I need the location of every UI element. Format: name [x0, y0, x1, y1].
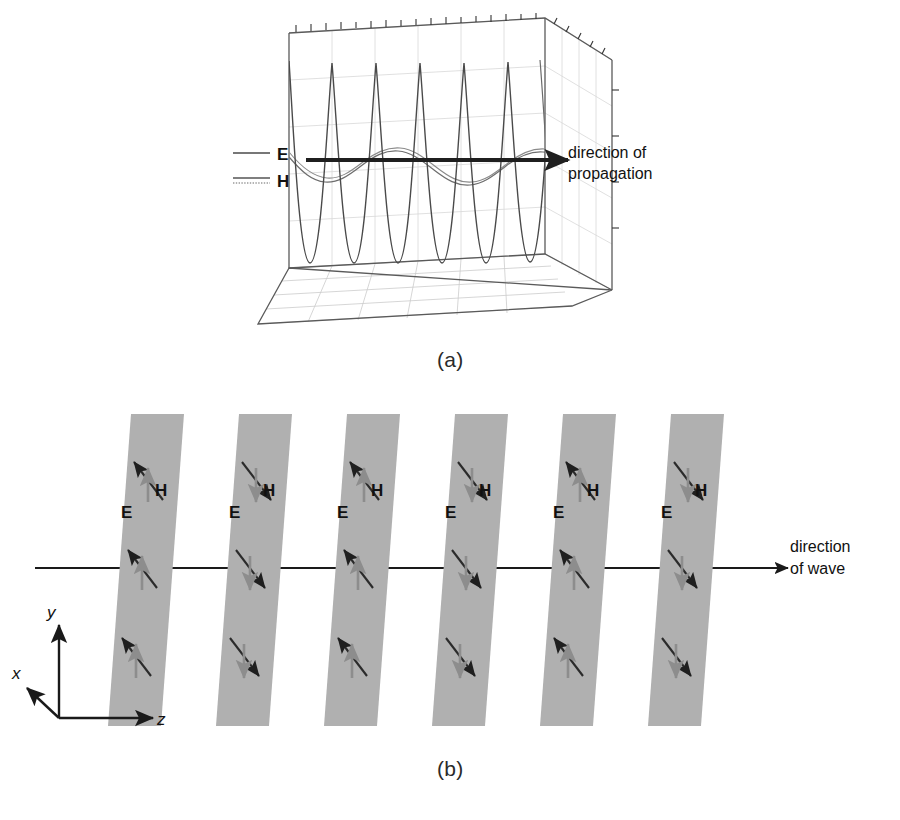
- panel-b-wavefront-planes: E H E H: [11, 414, 850, 729]
- wavefront-plane-5: E H: [540, 414, 616, 726]
- e-label-plane-4: E: [445, 503, 456, 522]
- legend-entry-e: E: [233, 145, 288, 164]
- h-field-wave-return: [289, 148, 581, 182]
- axis-label-z: z: [156, 710, 166, 729]
- plane-shape: [648, 414, 724, 726]
- plane-shape: [216, 414, 292, 726]
- wave-annotation-line1: direction: [790, 538, 850, 555]
- wavefront-plane-3: E H: [324, 414, 400, 726]
- legend-panel-a: E H: [233, 145, 289, 191]
- h-label-plane-1: H: [155, 481, 167, 500]
- axis-label-x: x: [11, 664, 21, 683]
- wavefront-plane-4: E H: [432, 414, 508, 726]
- legend-label-e: E: [277, 145, 288, 164]
- figure-canvas: E H direction of propagation: [0, 0, 900, 820]
- propagation-annotation-line2: propagation: [568, 165, 653, 182]
- e-label-plane-1: E: [121, 503, 132, 522]
- axis-label-y: y: [46, 603, 57, 622]
- e-label-plane-2: E: [229, 503, 240, 522]
- legend-entry-h: H: [233, 172, 289, 191]
- back-wall-grid: [289, 18, 545, 268]
- h-label-plane-4: H: [479, 481, 491, 500]
- panel-label-b: (b): [437, 757, 464, 781]
- plane-shape: [108, 414, 184, 726]
- top-edge-ticks: [296, 13, 605, 54]
- panel-a-3d-wavebox: E H direction of propagation: [233, 13, 653, 324]
- wavefront-plane-6: E H: [648, 414, 724, 726]
- plane-shape: [432, 414, 508, 726]
- wavefront-plane-1: E H: [108, 414, 184, 726]
- h-field-wave: [289, 151, 579, 185]
- floor-grid: [258, 254, 572, 324]
- e-label-plane-6: E: [661, 503, 672, 522]
- e-label-plane-3: E: [337, 503, 348, 522]
- plane-shape: [540, 414, 616, 726]
- legend-label-h: H: [277, 172, 289, 191]
- e-label-plane-5: E: [553, 503, 564, 522]
- h-label-plane-6: H: [695, 481, 707, 500]
- h-label-plane-5: H: [587, 481, 599, 500]
- figure-electromagnetic-wave: E H direction of propagation: [0, 0, 900, 820]
- wavefront-plane-2: E H: [216, 414, 292, 726]
- h-label-plane-2: H: [263, 481, 275, 500]
- plane-shape: [324, 414, 400, 726]
- axis-x-line: [27, 688, 59, 718]
- propagation-annotation-line1: direction of: [568, 144, 647, 161]
- panel-label-a: (a): [437, 348, 464, 372]
- wave-annotation-line2: of wave: [790, 560, 845, 577]
- h-label-plane-3: H: [371, 481, 383, 500]
